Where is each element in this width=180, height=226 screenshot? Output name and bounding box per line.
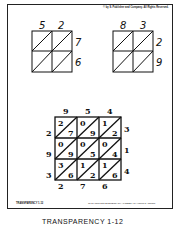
- lattice-units-digit: 7: [68, 128, 74, 138]
- grid-b-diagonal: [133, 51, 153, 72]
- lattice-bottom-digit: 7: [80, 181, 86, 191]
- lattice-tens-digit: 1: [80, 160, 86, 170]
- lattice-units-digit: 4: [112, 149, 118, 159]
- grid-a-side-digit: 7: [75, 37, 82, 48]
- grid-b: [113, 31, 153, 72]
- footer-left: TRANSPARENCY 1-12: [16, 202, 43, 205]
- lattice-tens-digit: 0: [80, 139, 86, 149]
- lattice-left-digit: 9: [46, 149, 52, 159]
- lattice-tens-digit: 1: [102, 160, 108, 170]
- footer-right: To be used with ELEMENTARY ALGEBRA by Ha…: [88, 202, 155, 205]
- lattice-left-digit: 2: [46, 128, 52, 138]
- lattice-units-digit: 6: [112, 170, 118, 180]
- lattice-tens-digit: 3: [58, 160, 64, 170]
- transparency-caption: TRANSPARENCY 1-12: [42, 218, 123, 225]
- grid-a-side-digit: 6: [75, 57, 81, 68]
- lattice-left-digit: 3: [46, 170, 52, 180]
- grid-b-diagonal: [113, 31, 133, 51]
- grid-a-diagonal: [32, 31, 52, 51]
- lattice-top-digit: 5: [85, 106, 91, 116]
- lattice-tens-digit: 0: [102, 139, 108, 149]
- lattice-right-digit: 3: [124, 124, 130, 134]
- lattice-tens-digit: 1: [102, 118, 108, 128]
- lattice-units-digit: 2: [112, 128, 118, 138]
- lattice-right-digit: 4: [124, 166, 130, 176]
- grid-a-diagonal: [32, 51, 52, 72]
- lattice-tens-digit: 2: [58, 118, 64, 128]
- lattice-figures: 5 2 7 6 8 3 2 9 270912090504361216954314…: [0, 0, 180, 226]
- lattice-bottom-digit: 2: [58, 181, 64, 191]
- grid-b-top-digit: 8: [120, 20, 126, 31]
- grid-a-diagonal: [52, 51, 72, 72]
- lattice-tens-digit: 0: [80, 118, 86, 128]
- grid-a-top-digit: 2: [58, 20, 64, 31]
- lattice-right-digit: 1: [124, 145, 130, 155]
- grid-b-diagonal: [113, 51, 133, 72]
- grid-a: [32, 31, 72, 72]
- lattice-grid: 270912090504361216954314293276: [46, 106, 130, 191]
- grid-b-top-digit: 3: [140, 20, 146, 31]
- grid-b-side-digit: 2: [156, 37, 162, 48]
- lattice-units-digit: 2: [90, 170, 96, 180]
- lattice-top-digit: 9: [63, 106, 69, 116]
- lattice-tens-digit: 0: [58, 139, 64, 149]
- lattice-top-digit: 4: [107, 106, 113, 116]
- lattice-units-digit: 6: [68, 170, 74, 180]
- lattice-units-digit: 9: [90, 128, 96, 138]
- grid-b-side-digit: 9: [156, 57, 162, 68]
- grid-a-diagonal: [52, 31, 72, 51]
- lattice-units-digit: 5: [90, 149, 96, 159]
- lattice-units-digit: 9: [68, 149, 74, 159]
- grid-b-diagonal: [133, 31, 153, 51]
- lattice-bottom-digit: 6: [102, 181, 108, 191]
- grid-a-top-digit: 5: [39, 20, 45, 31]
